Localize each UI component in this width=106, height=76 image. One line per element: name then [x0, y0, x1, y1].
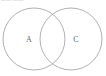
venn-label-c: C [73, 35, 78, 44]
venn-circle-a [3, 8, 65, 70]
venn-label-a: A [26, 35, 32, 44]
venn-circle-c [40, 8, 102, 70]
venn-diagram-figure: —— —— A C [0, 0, 106, 76]
venn-diagram-canvas: A C [0, 0, 106, 76]
